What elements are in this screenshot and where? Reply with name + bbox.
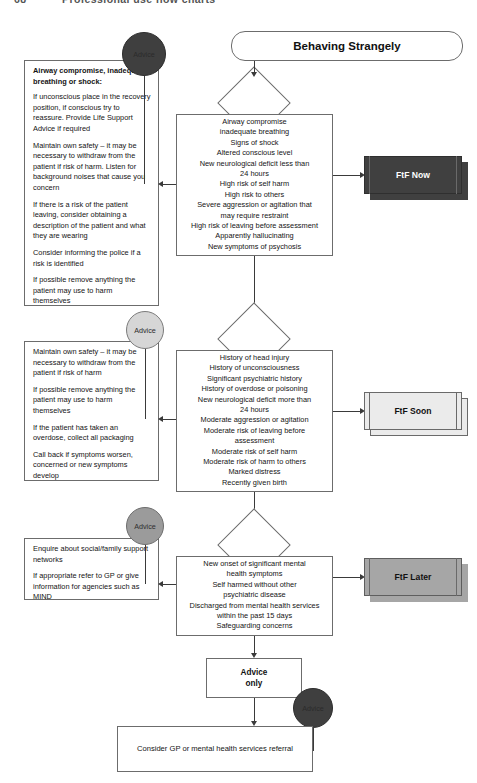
criteria-line: New neurological deficit more than [177,395,332,405]
advice-box-2: Maintain own safety – it may be necessar… [24,341,159,481]
criteria-line: 24 hours [177,405,332,415]
outcome-edge-left [369,558,370,596]
flowchart-page: 68 Professional use flow charts Behaving… [0,0,477,783]
criteria-line: Significant psychiatric history [177,374,332,384]
criteria-line: health symptoms [177,569,332,579]
connector-criteria3-to-ftflater [333,577,362,578]
end-node-box: Consider GP or mental health services re… [117,726,313,772]
outcome-edge-right [456,558,457,596]
advice-paragraph: Maintain own safety – it may be necessar… [33,141,151,194]
outcome-ftf-now: FtF Now [364,156,462,194]
criteria-line: History of overdose or poisoning [177,384,332,394]
outcome-ftf-later: FtF Later [364,558,462,596]
criteria-line: 24 hours [177,169,332,179]
criteria-line: Discharged from mental health services [177,601,332,611]
criteria-line: High risk of self harm [177,179,332,189]
arrow-to-advice3 [158,581,163,587]
advice-only-line-2: only [241,678,268,689]
outcome-edge-left [369,392,370,430]
criteria-box-3: New onset of significant mental health s… [176,556,333,636]
outcome-edge-right [456,156,457,194]
connector-criteria1-to-diamond2 [254,256,255,308]
criteria-line: Signs of shock [177,138,332,148]
criteria-line: Moderate risk of leaving before [177,426,332,436]
advice-paragraph: If the patient has taken an overdose, co… [33,423,151,444]
criteria-line: psychiatric disease [177,590,332,600]
connector-circle4-down [313,726,314,750]
advice-paragraph: If there is a risk of the patient leavin… [33,200,151,242]
connector-circle2-down [145,349,146,419]
advice-box-3: Enquire about social/family support netw… [24,538,159,600]
criteria-line: Severe aggression or agitation that [177,200,332,210]
running-title: Professional use flow charts [62,0,216,5]
advice-box-1: Airway compromise, inadequate breathing … [24,60,159,306]
criteria-line: Self harmed without other [177,580,332,590]
criteria-line: High risk to others [177,190,332,200]
advice-paragraph: If possible remove anything the patient … [33,275,151,307]
arrow-title-to-diamond1 [251,72,257,77]
criteria-box-2: History of head injury History of uncons… [176,350,333,492]
advice-circle-4: Advice [293,688,333,728]
criteria-line: History of unconsciousness [177,363,332,373]
criteria-line: High risk of leaving before assessment [177,221,332,231]
criteria-line: may require restraint [177,211,332,221]
advice-paragraph: Call back if symptoms worsen, concerned … [33,450,151,482]
advice-only-box: Advice only [206,658,302,698]
page-title: Behaving Strangely [231,31,463,61]
criteria-line: Apparently hallucinating [177,231,332,241]
advice-paragraph: Maintain own safety – it may be necessar… [33,347,151,379]
outcome-label: FtF Later [364,558,462,596]
criteria-line: New onset of significant mental [177,559,332,569]
advice-paragraph: Consider informing the police if a risk … [33,248,151,269]
criteria-line: History of head injury [177,353,332,363]
criteria-line: Safeguarding concerns [177,621,332,631]
criteria-line: Altered conscious level [177,148,332,158]
criteria-line: New neurological deficit less than [177,159,332,169]
criteria-box-1: Airway compromise inadequate breathing S… [176,114,333,256]
criteria-line: within the past 15 days [177,611,332,621]
connector-circle1-down [144,76,145,184]
advice-circle-3: Advice [126,507,164,545]
outcome-label: FtF Now [364,156,462,194]
advice-paragraph: If unconscious place in the recovery pos… [33,92,151,134]
criteria-line: Moderate aggression or agitation [177,415,332,425]
connector-adviceonly-to-end [254,698,255,722]
arrow-to-advice1 [158,181,163,187]
outcome-edge-left [369,156,370,194]
connector-criteria2-to-ftfsoon [333,411,362,412]
advice-circle-2: Advice [126,311,164,349]
criteria-line: Airway compromise [177,117,332,127]
criteria-line: New symptoms of psychosis [177,242,332,252]
criteria-line: Moderate risk of self harm [177,447,332,457]
advice-paragraph: If possible remove anything the patient … [33,385,151,417]
outcome-edge-right [456,392,457,430]
criteria-line: Moderate risk of harm to others [177,457,332,467]
criteria-line: inadequate breathing [177,127,332,137]
outcome-label: FtF Soon [364,392,462,430]
criteria-line: assessment [177,436,332,446]
outcome-ftf-soon: FtF Soon [364,392,462,430]
connector-criteria1-to-ftfnow [333,175,362,176]
advice-paragraph: Enquire about social/family support netw… [33,544,151,565]
criteria-line: Recently given birth [177,478,332,488]
criteria-line: Marked distress [177,467,332,477]
advice-circle-1: Advice [122,32,166,76]
arrow-to-advice2 [158,416,163,422]
page-number: 68 [14,0,26,5]
connector-circle3-down [145,545,146,584]
running-header: 68 Professional use flow charts [0,0,477,7]
connector-criteria3-to-adviceonly [254,636,255,654]
advice-paragraph: If appropriate refer to GP or give infor… [33,571,151,603]
advice-only-line-1: Advice [241,667,268,678]
